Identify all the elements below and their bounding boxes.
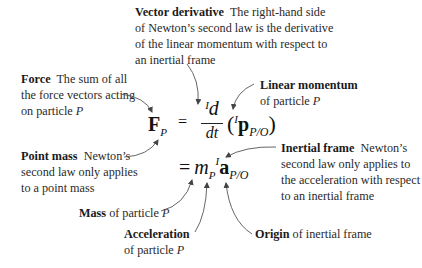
mass-arrow bbox=[161, 180, 192, 211]
origin-arrow bbox=[226, 183, 252, 234]
linear-momentum-arrow bbox=[233, 84, 254, 109]
vector-derivative-arrow bbox=[187, 64, 198, 104]
force-arrow bbox=[121, 94, 152, 112]
callout-arrows bbox=[0, 0, 422, 268]
acceleration-arrow bbox=[195, 183, 207, 232]
point-mass-arrow bbox=[124, 140, 158, 157]
inertial-frame-arrow bbox=[226, 147, 276, 157]
